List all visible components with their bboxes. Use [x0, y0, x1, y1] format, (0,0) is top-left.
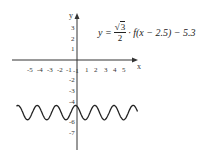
y-axis-label: y [69, 11, 73, 20]
svg-text:1: 1 [85, 66, 89, 74]
svg-text:-3: -3 [69, 87, 75, 95]
svg-text:5: 5 [122, 66, 126, 74]
svg-text:-2: -2 [69, 76, 75, 84]
svg-text:-5: -5 [27, 66, 33, 74]
svg-text:2: 2 [94, 66, 98, 74]
svg-text:3: 3 [104, 66, 108, 74]
x-axis [12, 58, 138, 63]
origin-tick-1: -1 [73, 67, 79, 75]
formula-numerator: 3 [120, 21, 126, 32]
svg-text:-7: -7 [69, 129, 75, 137]
svg-text:1: 1 [71, 45, 75, 53]
svg-text:-3: -3 [47, 66, 53, 74]
svg-text:2: 2 [71, 35, 75, 43]
svg-text:-6: -6 [69, 118, 75, 126]
x-axis-label: x [137, 62, 141, 71]
svg-text:-1: -1 [66, 66, 72, 74]
y-axis-arrow-icon [75, 13, 80, 19]
formula-fraction: √3 2 [114, 22, 126, 43]
formula-rest: · f(x − 2.5) − 5.3 [128, 27, 195, 38]
y-axis [75, 13, 80, 150]
y-tick-labels: 3 2 1 -2 -3 -4 -6 -7 -1 [69, 24, 79, 137]
svg-text:4: 4 [113, 66, 117, 74]
function-formula: y = √3 2 · f(x − 2.5) − 5.3 [98, 22, 196, 43]
svg-text:-2: -2 [57, 66, 63, 74]
sqrt-icon: √ [115, 22, 120, 32]
svg-text:-4: -4 [69, 98, 75, 106]
svg-text:3: 3 [71, 24, 75, 32]
formula-denominator: 2 [118, 33, 123, 43]
svg-text:-4: -4 [37, 66, 43, 74]
formula-lhs: y = [98, 27, 112, 38]
